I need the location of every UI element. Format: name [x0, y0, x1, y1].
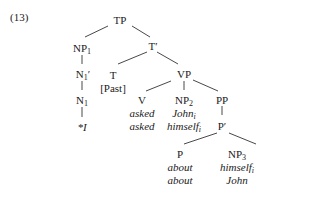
- node-p: P: [177, 148, 183, 160]
- leaf-about-2: about: [167, 174, 192, 186]
- node-v: V: [138, 94, 146, 106]
- node-pp: PP: [216, 94, 228, 106]
- node-tp: TP: [114, 14, 127, 26]
- leaf-star-i: *I: [77, 121, 86, 133]
- node-np1: NP1: [73, 42, 91, 54]
- node-n1: N1: [76, 94, 88, 106]
- node-np3: NP3: [228, 148, 246, 160]
- leaf-himself-i: himselfi: [167, 120, 201, 132]
- node-np2: NP2: [175, 94, 193, 106]
- node-t-feature: [Past]: [100, 82, 126, 94]
- leaf-asked-2: asked: [129, 120, 154, 132]
- leaf-john-i: Johni: [172, 107, 196, 119]
- node-t: T: [110, 69, 117, 81]
- leaf-himself-i-2: himselfi: [220, 161, 254, 173]
- leaf-about-1: about: [167, 161, 192, 173]
- leaf-asked-1: asked: [129, 107, 154, 119]
- node-vp: VP: [177, 68, 191, 80]
- leaf-john: John: [226, 174, 247, 186]
- node-t-bar: T′: [148, 40, 157, 52]
- node-p-bar: P′: [218, 120, 227, 132]
- node-n1-bar: N1′: [76, 68, 90, 80]
